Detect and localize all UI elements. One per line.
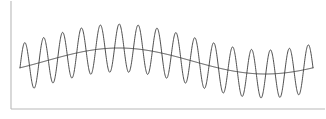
chart-container <box>0 0 326 119</box>
waveform-plot <box>0 0 326 119</box>
